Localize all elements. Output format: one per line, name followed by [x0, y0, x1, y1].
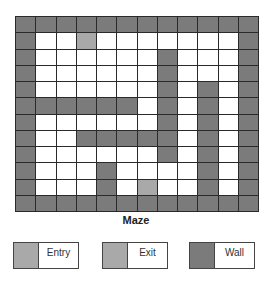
wall-cell — [16, 33, 35, 48]
wall-cell — [219, 196, 238, 211]
open-cell — [158, 33, 177, 48]
wall-cell — [158, 147, 177, 162]
exit-swatch — [103, 243, 128, 268]
open-cell — [77, 163, 96, 178]
wall-cell — [16, 50, 35, 65]
wall-cell — [138, 17, 157, 32]
wall-cell — [158, 131, 177, 146]
wall-cell — [158, 50, 177, 65]
wall-cell — [198, 196, 217, 211]
wall-cell — [16, 131, 35, 146]
wall-cell — [198, 147, 217, 162]
wall-cell — [16, 115, 35, 130]
open-cell — [117, 66, 136, 81]
open-cell — [57, 66, 76, 81]
wall-cell — [178, 17, 197, 32]
wall-cell — [239, 82, 258, 97]
wall-cell — [16, 180, 35, 195]
open-cell — [97, 33, 116, 48]
wall-cell — [198, 163, 217, 178]
wall-cell — [16, 98, 35, 113]
open-cell — [178, 82, 197, 97]
open-cell — [57, 82, 76, 97]
wall-cell — [239, 196, 258, 211]
wall-cell — [36, 98, 55, 113]
open-cell — [117, 147, 136, 162]
open-cell — [36, 50, 55, 65]
wall-cell — [117, 196, 136, 211]
wall-cell — [77, 98, 96, 113]
open-cell — [36, 115, 55, 130]
open-cell — [97, 82, 116, 97]
wall-cell — [198, 131, 217, 146]
wall-cell — [77, 131, 96, 146]
wall-cell — [198, 82, 217, 97]
open-cell — [138, 33, 157, 48]
open-cell — [36, 131, 55, 146]
wall-cell — [158, 17, 177, 32]
open-cell — [57, 115, 76, 130]
wall-cell — [239, 180, 258, 195]
open-cell — [158, 180, 177, 195]
open-cell — [117, 163, 136, 178]
wall-cell — [219, 17, 238, 32]
wall-cell — [158, 98, 177, 113]
open-cell — [36, 66, 55, 81]
open-cell — [36, 33, 55, 48]
wall-cell — [198, 98, 217, 113]
open-cell — [219, 163, 238, 178]
wall-cell — [97, 180, 116, 195]
wall-cell — [198, 115, 217, 130]
open-cell — [219, 180, 238, 195]
wall-cell — [239, 66, 258, 81]
wall-cell — [239, 50, 258, 65]
legend-wall: Wall — [189, 242, 255, 269]
open-cell — [219, 33, 238, 48]
maze-grid — [15, 16, 259, 212]
open-cell — [57, 50, 76, 65]
wall-cell — [36, 17, 55, 32]
open-cell — [57, 163, 76, 178]
wall-cell — [158, 115, 177, 130]
wall-cell — [77, 196, 96, 211]
wall-cell — [198, 17, 217, 32]
open-cell — [198, 50, 217, 65]
wall-cell — [198, 180, 217, 195]
wall-cell — [16, 17, 35, 32]
open-cell — [138, 82, 157, 97]
open-cell — [178, 66, 197, 81]
open-cell — [138, 98, 157, 113]
open-cell — [219, 131, 238, 146]
wall-cell — [97, 196, 116, 211]
wall-cell — [97, 98, 116, 113]
open-cell — [36, 82, 55, 97]
open-cell — [36, 180, 55, 195]
open-cell — [57, 180, 76, 195]
open-cell — [117, 180, 136, 195]
open-cell — [178, 180, 197, 195]
open-cell — [77, 147, 96, 162]
wall-cell — [178, 196, 197, 211]
open-cell — [138, 66, 157, 81]
entry-swatch — [14, 243, 39, 268]
wall-cell — [57, 17, 76, 32]
maze-title: Maze — [0, 214, 272, 226]
wall-cell — [239, 17, 258, 32]
legend-exit: Exit — [102, 242, 168, 269]
open-cell — [138, 115, 157, 130]
open-cell — [97, 50, 116, 65]
open-cell — [219, 115, 238, 130]
wall-cell — [117, 131, 136, 146]
open-cell — [219, 66, 238, 81]
open-cell — [219, 82, 238, 97]
open-cell — [36, 147, 55, 162]
wall-cell — [158, 82, 177, 97]
wall-cell — [57, 196, 76, 211]
wall-cell — [239, 131, 258, 146]
open-cell — [138, 147, 157, 162]
wall-cell — [16, 163, 35, 178]
open-cell — [77, 82, 96, 97]
open-cell — [138, 50, 157, 65]
open-cell — [178, 33, 197, 48]
wall-swatch — [190, 243, 215, 268]
